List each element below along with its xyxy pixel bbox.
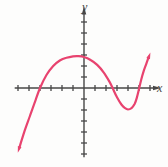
y-axis-label: y: [81, 0, 88, 14]
x-axis-label: x: [156, 81, 163, 95]
graph-canvas: x y: [0, 0, 168, 167]
function-graph-figure: x y: [0, 0, 168, 167]
